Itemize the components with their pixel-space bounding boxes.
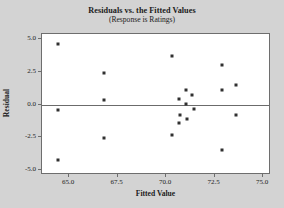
y-tick-label: -5.0 (10, 165, 36, 173)
x-axis-label: Fitted Value (41, 189, 270, 198)
y-tick-label: 2.5 (10, 67, 36, 75)
y-tick-label: 0.0 (10, 100, 36, 108)
x-tick-label: 70.0 (159, 178, 171, 186)
x-tick-mark (117, 174, 118, 177)
chart-subtitle: (Response is Ratings) (0, 16, 284, 25)
y-axis-label: Residual (2, 89, 11, 117)
data-point (185, 117, 188, 120)
x-tick-label: 75.0 (256, 178, 268, 186)
residual-plot: Residuals vs. the Fitted Values (Respons… (0, 0, 284, 208)
plot-area (41, 33, 270, 174)
x-tick-mark (262, 174, 263, 177)
y-tick-label: 5.0 (10, 34, 36, 42)
data-point (177, 122, 180, 125)
page-title: Residuals vs. the Fitted Values (0, 6, 284, 15)
data-point (193, 108, 196, 111)
data-point (221, 149, 224, 152)
data-point (56, 108, 59, 111)
chart-title-block: Residuals vs. the Fitted Values (Respons… (0, 6, 284, 25)
data-point (171, 134, 174, 137)
data-point (184, 103, 187, 106)
x-tick-label: 72.5 (208, 178, 220, 186)
x-tick-label: 65.0 (62, 178, 74, 186)
data-point (235, 113, 238, 116)
data-point (103, 98, 106, 101)
data-point (178, 113, 181, 116)
data-point (171, 54, 174, 57)
y-tick-label: -2.5 (10, 132, 36, 140)
data-point (103, 72, 106, 75)
x-tick-label: 67.5 (111, 178, 123, 186)
data-point (221, 63, 224, 66)
data-point (191, 94, 194, 97)
x-tick-mark (214, 174, 215, 177)
x-tick-mark (165, 174, 166, 177)
zero-reference-line (42, 105, 269, 106)
data-point (103, 137, 106, 140)
data-point (56, 43, 59, 46)
data-point (221, 89, 224, 92)
x-tick-mark (68, 174, 69, 177)
data-point (177, 98, 180, 101)
data-point (184, 88, 187, 91)
data-point (235, 84, 238, 87)
data-point (56, 158, 59, 161)
